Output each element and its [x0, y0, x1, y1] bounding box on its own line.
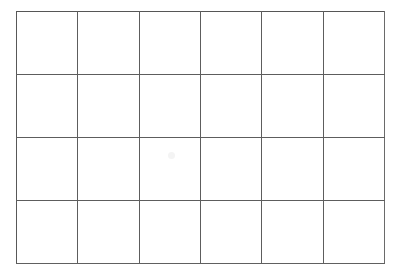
grid-cell-r2c5[interactable]: [262, 75, 323, 138]
grid-cell-r2c3[interactable]: [139, 75, 200, 138]
grid-cell-r4c3[interactable]: [139, 201, 200, 264]
table-row[interactable]: [17, 12, 385, 75]
grid-cell-r3c1[interactable]: [17, 138, 78, 201]
grid-cell-r1c3[interactable]: [139, 12, 200, 75]
grid-cell-r2c4[interactable]: [200, 75, 261, 138]
grid-cell-text: [140, 201, 200, 205]
grid-cell-text: [262, 138, 322, 142]
grid-cell-r1c6[interactable]: [323, 12, 384, 75]
grid-cell-text: [201, 75, 261, 79]
grid-cell-r3c4[interactable]: [200, 138, 261, 201]
grid-table-body: [17, 12, 385, 264]
grid-cell-r4c6[interactable]: [323, 201, 384, 264]
grid-cell-text: [262, 75, 322, 79]
grid-cell-r4c4[interactable]: [200, 201, 261, 264]
grid-cell-text: [262, 12, 322, 16]
grid-cell-r4c2[interactable]: [78, 201, 139, 264]
grid-cell-text: [324, 75, 384, 79]
grid-cell-text: [17, 201, 77, 205]
grid-cell-text: [201, 201, 261, 205]
grid-cell-r1c2[interactable]: [78, 12, 139, 75]
grid-cell-text: [17, 12, 77, 16]
grid-cell-text: [201, 12, 261, 16]
grid-cell-text: [78, 201, 138, 205]
grid-cell-text: [324, 12, 384, 16]
table-row[interactable]: [17, 75, 385, 138]
grid-cell-text: [140, 138, 200, 142]
grid-cell-r1c5[interactable]: [262, 12, 323, 75]
grid-cell-r2c2[interactable]: [78, 75, 139, 138]
grid-table[interactable]: [16, 11, 385, 264]
grid-cell-text: [17, 75, 77, 79]
grid-cell-r4c5[interactable]: [262, 201, 323, 264]
grid-cell-text: [78, 138, 138, 142]
grid-cell-r1c1[interactable]: [17, 12, 78, 75]
grid-cell-r3c5[interactable]: [262, 138, 323, 201]
grid-cell-text: [140, 75, 200, 79]
grid-cell-r3c2[interactable]: [78, 138, 139, 201]
grid-cell-r3c6[interactable]: [323, 138, 384, 201]
grid-cell-r2c1[interactable]: [17, 75, 78, 138]
grid-cell-r3c3[interactable]: [139, 138, 200, 201]
grid-cell-text: [262, 201, 322, 205]
grid-cell-text: [78, 12, 138, 16]
table-row[interactable]: [17, 201, 385, 264]
grid-cell-text: [140, 12, 200, 16]
grid-cell-text: [78, 75, 138, 79]
table-row[interactable]: [17, 138, 385, 201]
grid-cell-text: [201, 138, 261, 142]
grid-cell-r4c1[interactable]: [17, 201, 78, 264]
grid-cell-r2c6[interactable]: [323, 75, 384, 138]
grid-cell-text: [324, 138, 384, 142]
page-canvas: [0, 0, 401, 274]
grid-cell-text: [324, 201, 384, 205]
grid-cell-text: [17, 138, 77, 142]
grid-cell-r1c4[interactable]: [200, 12, 261, 75]
